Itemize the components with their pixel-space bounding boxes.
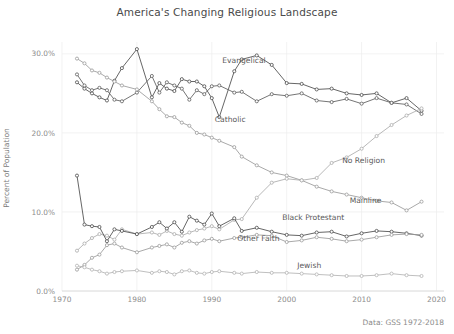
series-marker-mainline <box>405 209 408 212</box>
series-marker-jewish <box>165 270 168 273</box>
series-marker-black-protestant <box>255 226 258 229</box>
series-marker-other-faith <box>210 237 213 240</box>
series-marker-jewish <box>98 270 101 273</box>
series-marker-mainline <box>210 136 213 139</box>
series-marker-mainline <box>188 124 191 127</box>
series-marker-black-protestant <box>390 230 393 233</box>
series-marker-evangelical <box>75 81 78 84</box>
series-marker-catholic <box>113 98 116 101</box>
series-marker-other-faith <box>135 251 138 254</box>
series-marker-catholic <box>240 90 243 93</box>
series-marker-catholic <box>120 100 123 103</box>
series-marker-catholic <box>158 91 161 94</box>
series-annotation-mainline: Mainline <box>350 196 382 205</box>
y-tick-label: 30.0% <box>32 49 55 58</box>
series-marker-catholic <box>315 99 318 102</box>
series-marker-catholic <box>405 103 408 106</box>
series-marker-jewish <box>195 271 198 274</box>
series-marker-no-religion <box>270 181 273 184</box>
series-marker-no-religion <box>173 233 176 236</box>
series-marker-no-religion <box>420 107 423 110</box>
series-marker-evangelical <box>98 96 101 99</box>
series-marker-black-protestant <box>203 223 206 226</box>
series-marker-black-protestant <box>135 233 138 236</box>
series-marker-catholic <box>345 97 348 100</box>
series-marker-other-faith <box>165 243 168 246</box>
series-marker-evangelical <box>195 80 198 83</box>
series-marker-jewish <box>180 270 183 273</box>
series-marker-evangelical <box>135 48 138 51</box>
series-marker-black-protestant <box>210 212 213 215</box>
x-tick-label: 2000 <box>277 295 296 304</box>
series-marker-black-protestant <box>315 231 318 234</box>
series-marker-black-protestant <box>300 234 303 237</box>
series-marker-no-religion <box>300 179 303 182</box>
series-marker-no-religion <box>390 123 393 126</box>
series-marker-catholic <box>210 85 213 88</box>
series-marker-other-faith <box>375 236 378 239</box>
series-annotation-other-faith: Other Faith <box>237 234 279 243</box>
series-marker-other-faith <box>233 236 236 239</box>
series-marker-black-protestant <box>360 232 363 235</box>
series-marker-catholic <box>135 91 138 94</box>
series-marker-other-faith <box>188 240 191 243</box>
series-marker-mainline <box>180 121 183 124</box>
series-marker-black-protestant <box>150 225 153 228</box>
series-marker-mainline <box>218 139 221 142</box>
series-marker-evangelical <box>270 63 273 66</box>
series-line-mainline <box>77 59 422 211</box>
series-marker-no-religion <box>405 114 408 117</box>
series-marker-evangelical <box>173 89 176 92</box>
series-marker-jewish <box>105 272 108 275</box>
series-marker-black-protestant <box>180 230 183 233</box>
series-marker-jewish <box>375 274 378 277</box>
series-marker-evangelical <box>285 82 288 85</box>
series-marker-no-religion <box>113 238 116 241</box>
series-marker-evangelical <box>233 70 236 73</box>
series-marker-jewish <box>390 272 393 275</box>
series-marker-catholic <box>195 89 198 92</box>
series-annotation-catholic: Catholic <box>215 115 246 124</box>
chart-caption: Data: GSS 1972-2018 <box>363 318 444 327</box>
series-annotation-black-protestant: Black Protestant <box>282 213 344 222</box>
series-marker-other-faith <box>180 241 183 244</box>
series-marker-mainline <box>83 62 86 65</box>
series-marker-jewish <box>120 270 123 273</box>
series-line-jewish <box>77 266 422 276</box>
series-marker-catholic <box>188 98 191 101</box>
series-marker-black-protestant <box>195 219 198 222</box>
series-marker-catholic <box>105 89 108 92</box>
series-marker-mainline <box>233 146 236 149</box>
series-marker-black-protestant <box>240 229 243 232</box>
series-marker-black-protestant <box>285 233 288 236</box>
series-marker-no-religion <box>240 218 243 221</box>
y-tick-label: 10.0% <box>32 208 55 217</box>
series-marker-black-protestant <box>345 235 348 238</box>
series-marker-jewish <box>285 271 288 274</box>
series-marker-evangelical <box>330 87 333 90</box>
series-marker-catholic <box>180 87 183 90</box>
series-marker-jewish <box>360 274 363 277</box>
series-marker-evangelical <box>345 92 348 95</box>
series-marker-black-protestant <box>113 228 116 231</box>
series-marker-jewish <box>218 270 221 273</box>
series-marker-catholic <box>75 73 78 76</box>
series-annotation-jewish: Jewish <box>296 261 321 270</box>
y-tick-label: 20.0% <box>32 129 55 138</box>
series-marker-catholic <box>390 101 393 104</box>
series-marker-mainline <box>165 115 168 118</box>
x-tick-label: 1980 <box>127 295 146 304</box>
series-marker-mainline <box>120 84 123 87</box>
series-marker-other-faith <box>113 242 116 245</box>
series-marker-no-religion <box>285 177 288 180</box>
x-tick-label: 1990 <box>202 295 221 304</box>
series-marker-jewish <box>113 270 116 273</box>
series-marker-other-faith <box>360 238 363 241</box>
series-marker-evangelical <box>165 87 168 90</box>
series-marker-catholic <box>420 112 423 115</box>
series-marker-other-faith <box>330 237 333 240</box>
series-marker-jewish <box>210 270 213 273</box>
series-marker-mainline <box>330 190 333 193</box>
series-marker-catholic <box>233 91 236 94</box>
series-marker-other-faith <box>105 244 108 247</box>
